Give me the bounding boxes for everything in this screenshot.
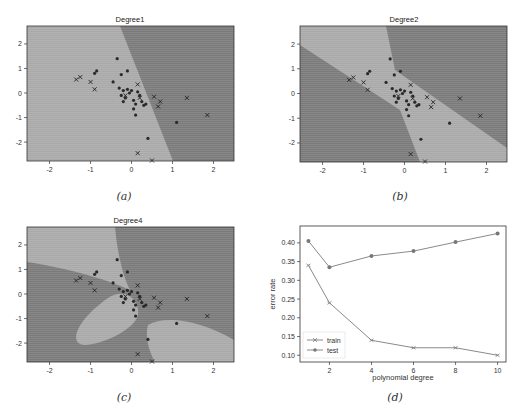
panel-c-caption: (c) bbox=[117, 391, 132, 404]
x-tick-label: -1 bbox=[87, 367, 93, 374]
data-point bbox=[93, 72, 96, 75]
data-point bbox=[93, 273, 96, 276]
x-tick-label: -1 bbox=[360, 167, 366, 174]
data-point bbox=[417, 103, 420, 106]
data-point bbox=[409, 91, 412, 94]
data-point bbox=[407, 103, 410, 106]
data-point bbox=[403, 89, 406, 92]
y-tick-label: 0 bbox=[18, 291, 22, 298]
data-point bbox=[116, 57, 119, 60]
y-tick-label: -1 bbox=[16, 114, 22, 121]
data-point bbox=[140, 301, 143, 304]
x-tick-label: 8 bbox=[454, 367, 458, 374]
y-tick-label: 1 bbox=[291, 65, 295, 72]
panel-c: Degree4 -2-1012-2-1012 (c) bbox=[16, 216, 234, 404]
data-point bbox=[95, 69, 98, 72]
panel-d: 2468100.100.150.200.250.300.350.40 polyn… bbox=[268, 226, 506, 404]
data-point bbox=[146, 338, 149, 341]
data-point bbox=[126, 88, 129, 91]
data-point bbox=[448, 122, 451, 125]
x-tick-label: 1 bbox=[444, 167, 448, 174]
legend-train-label: train bbox=[327, 337, 341, 344]
data-point bbox=[366, 72, 369, 75]
data-point bbox=[120, 94, 123, 97]
data-point bbox=[405, 99, 408, 102]
legend-dot-marker-icon bbox=[313, 348, 317, 352]
data-point bbox=[175, 121, 178, 124]
data-point bbox=[130, 89, 133, 92]
x-tick-label: 1 bbox=[171, 166, 175, 173]
x-tick-label: -2 bbox=[319, 167, 325, 174]
marker-test bbox=[496, 231, 500, 235]
y-tick-label: -2 bbox=[16, 139, 22, 146]
x-tick-label: -2 bbox=[46, 166, 52, 173]
panel-b: Degree2 -2-1012-2-1012 (b) bbox=[289, 15, 507, 203]
data-point bbox=[111, 281, 114, 284]
x-tick-label: -1 bbox=[87, 166, 93, 173]
data-point bbox=[134, 114, 137, 117]
data-point bbox=[395, 101, 398, 104]
data-point bbox=[122, 100, 125, 103]
marker-test bbox=[454, 240, 458, 244]
data-point bbox=[122, 290, 125, 293]
y-tick-label: 0.40 bbox=[281, 239, 295, 246]
y-tick-label: 2 bbox=[18, 241, 22, 248]
x-tick-label: 1 bbox=[171, 367, 175, 374]
data-point bbox=[134, 102, 137, 105]
data-point bbox=[413, 101, 416, 104]
data-point bbox=[128, 292, 131, 295]
data-point bbox=[134, 315, 137, 318]
data-point bbox=[405, 108, 408, 111]
data-point bbox=[126, 69, 129, 72]
data-point bbox=[146, 137, 149, 140]
y-tick-label: 2 bbox=[291, 41, 295, 48]
data-point bbox=[395, 89, 398, 92]
data-point bbox=[128, 91, 131, 94]
x-tick-label: 0 bbox=[130, 166, 134, 173]
data-point bbox=[175, 322, 178, 325]
x-tick-label: 0 bbox=[403, 167, 407, 174]
y-tick-label: 1 bbox=[18, 266, 22, 273]
data-point bbox=[140, 100, 143, 103]
panel-a-title: Degree1 bbox=[116, 15, 145, 24]
data-point bbox=[118, 87, 121, 90]
panel-d-legend: train test bbox=[303, 332, 345, 358]
data-point bbox=[391, 87, 394, 90]
data-point bbox=[132, 99, 135, 102]
panel-c-title: Degree4 bbox=[114, 216, 143, 225]
x-tick-label: 2 bbox=[327, 367, 331, 374]
data-point bbox=[120, 295, 123, 298]
data-point bbox=[111, 80, 114, 83]
x-tick-label: 2 bbox=[212, 367, 216, 374]
data-point bbox=[122, 89, 125, 92]
data-point bbox=[118, 288, 121, 291]
data-point bbox=[419, 138, 422, 141]
data-point bbox=[126, 270, 129, 273]
data-point bbox=[136, 291, 139, 294]
data-point bbox=[122, 301, 125, 304]
marker-test bbox=[412, 249, 416, 253]
panel-d-caption: (d) bbox=[387, 391, 403, 404]
data-point bbox=[389, 57, 392, 60]
data-point bbox=[120, 274, 123, 277]
panel-a: Degree1 -2-1012-2-1012 (a) bbox=[16, 15, 234, 203]
y-tick-label: 0.30 bbox=[281, 277, 295, 284]
data-point bbox=[130, 290, 133, 293]
data-point bbox=[393, 73, 396, 76]
data-point bbox=[116, 258, 119, 261]
y-tick-label: 0.10 bbox=[281, 352, 295, 359]
y-tick-label: -1 bbox=[16, 315, 22, 322]
figure-canvas: Degree1 -2-1012-2-1012 (a) Degree2 -2-10… bbox=[0, 0, 519, 417]
data-point bbox=[134, 303, 137, 306]
y-tick-label: -1 bbox=[289, 115, 295, 122]
panel-b-title: Degree2 bbox=[390, 15, 419, 24]
data-point bbox=[399, 70, 402, 73]
x-tick-label: 2 bbox=[485, 167, 489, 174]
panel-d-ylabel: error rate bbox=[268, 279, 277, 310]
marker-test bbox=[306, 239, 310, 243]
data-point bbox=[144, 303, 147, 306]
y-tick-label: 1 bbox=[18, 65, 22, 72]
data-point bbox=[95, 270, 98, 273]
panel-b-caption: (b) bbox=[392, 190, 408, 203]
y-tick-label: 0 bbox=[18, 90, 22, 97]
